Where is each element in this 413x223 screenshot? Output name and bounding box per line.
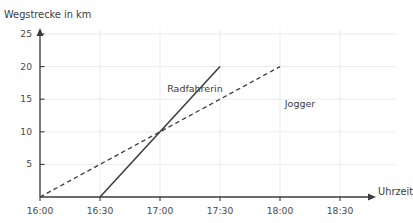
y-axis-tick-label: 10: [2, 126, 32, 137]
y-axis-tick-label: 20: [2, 61, 32, 72]
gridlines-group: [40, 30, 395, 197]
x-axis-tick-label: 17:00: [130, 205, 190, 216]
series-label-jogger: Jogger: [285, 98, 315, 109]
x-axis-tick-label: 18:00: [250, 205, 310, 216]
x-axis-tick-label: 16:00: [10, 205, 70, 216]
y-axis-title: Wegstrecke in km: [4, 9, 91, 20]
x-axis-tick-label: 16:30: [70, 205, 130, 216]
axes-group: [37, 28, 376, 200]
y-axis-arrowhead: [37, 28, 44, 36]
y-axis-tick-label: 5: [2, 158, 32, 169]
x-axis-tick-label: 18:30: [310, 205, 370, 216]
axis-ticks-group: [40, 34, 340, 201]
series-label-radfahrerin: Radfahrerin: [167, 83, 223, 94]
y-axis-tick-label: 15: [2, 93, 32, 104]
x-axis-tick-label: 17:30: [190, 205, 250, 216]
x-axis-arrowhead: [368, 194, 376, 201]
x-axis-title: Uhrzeit: [378, 186, 413, 197]
y-axis-tick-label: 25: [2, 28, 32, 39]
